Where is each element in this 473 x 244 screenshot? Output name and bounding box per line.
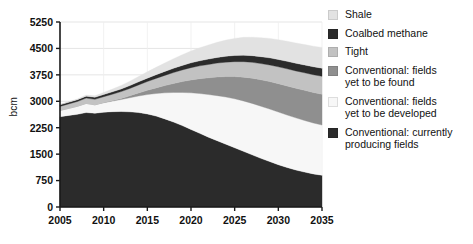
legend-swatch-tight [328, 47, 338, 57]
chart-figure: 0750150022503000375045005250 20052010201… [0, 0, 473, 244]
y-axis-label: bcm [8, 103, 19, 117]
legend-label-conventional-currently-producing: Conventional: currently producing fields [345, 126, 452, 151]
x-tick-label: 2030 [267, 214, 291, 226]
x-tick-label: 2015 [136, 214, 160, 226]
legend-swatch-coalbed-methane [328, 29, 338, 39]
legend-label-conventional-yet-to-be-found: Conventional: fields yet to be found [345, 64, 437, 89]
y-tick-label: 5250 [30, 16, 54, 28]
legend-label-shale: Shale [345, 8, 372, 21]
y-tick-label: 1500 [30, 148, 54, 160]
legend-item-tight[interactable]: Tight [328, 45, 471, 58]
legend-swatch-conventional-yet-to-be-found [328, 66, 338, 76]
legend-item-conventional-yet-to-be-found[interactable]: Conventional: fields yet to be found [328, 64, 471, 89]
y-tick-label: 0 [47, 201, 53, 213]
legend-item-coalbed-methane[interactable]: Coalbed methane [328, 27, 471, 40]
legend-item-conventional-currently-producing[interactable]: Conventional: currently producing fields [328, 126, 471, 151]
y-tick-label: 750 [35, 174, 53, 186]
legend-swatch-conventional-currently-producing [328, 128, 338, 138]
legend-swatch-shale [328, 10, 338, 20]
legend-label-coalbed-methane: Coalbed methane [345, 27, 428, 40]
legend-label-tight: Tight [345, 45, 368, 58]
y-tick-label: 3000 [30, 95, 54, 107]
area-series-group [60, 37, 322, 207]
chart-legend: ShaleCoalbed methaneTightConventional: f… [328, 8, 471, 157]
legend-item-conventional-yet-to-be-developed[interactable]: Conventional: fields yet to be developed [328, 95, 471, 120]
legend-item-shale[interactable]: Shale [328, 8, 471, 21]
y-tick-label: 3750 [30, 69, 54, 81]
x-tick-label: 2020 [179, 214, 203, 226]
x-tick-label: 2025 [223, 214, 247, 226]
y-axis-ticks: 0750150022503000375045005250 [30, 16, 60, 213]
legend-label-conventional-yet-to-be-developed: Conventional: fields yet to be developed [345, 95, 437, 120]
y-tick-label: 4500 [30, 42, 54, 54]
y-tick-label: 2250 [30, 122, 54, 134]
x-tick-label: 2005 [48, 214, 72, 226]
x-tick-label: 2035 [310, 214, 334, 226]
legend-swatch-conventional-yet-to-be-developed [328, 97, 338, 107]
x-axis-ticks: 2005201020152020202520302035 [48, 207, 334, 226]
x-tick-label: 2010 [92, 214, 116, 226]
